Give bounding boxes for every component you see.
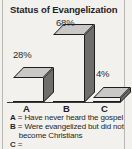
figure-panel: Status of Evangelization 28% 68% 4%: [3, 0, 124, 149]
legend-item-c: C =: [10, 141, 126, 149]
legend-separator-c: =: [18, 141, 23, 149]
legend-key-c: C: [10, 141, 16, 149]
bar-category-b: [53, 35, 84, 103]
chart-legend: A = Have never heard the gospel B = Were…: [10, 114, 126, 149]
chart-title: Status of Evangelization: [10, 4, 117, 15]
value-label-c: 4%: [96, 68, 109, 79]
bar-b-side-face: [84, 24, 95, 103]
legend-item-b-continuation: become Christians: [10, 132, 126, 141]
bar-category-a: [13, 78, 43, 103]
value-label-b: 68%: [56, 17, 74, 28]
chart-plot-area: 28% 68% 4%: [7, 17, 124, 103]
legend-text-b-line2: become Christians: [19, 132, 126, 141]
evangelization-chart-figure: Status of Evangelization 28% 68% 4%: [0, 0, 132, 149]
value-label-a: 28%: [13, 49, 31, 60]
